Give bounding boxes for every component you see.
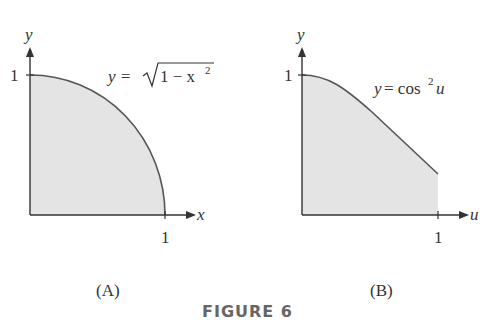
panel-b-eq-lhs: = cos xyxy=(384,79,421,98)
panel-a-eq-lhs: y = xyxy=(106,67,131,86)
panel-a-eq-sup: 2 xyxy=(205,64,211,76)
panel-b-eq-var: u xyxy=(436,79,445,98)
panel-a-y-axis-label: y xyxy=(23,25,33,44)
panel-a-eq-radicand: 1 − x xyxy=(160,67,196,86)
panel-b-eq-y: y xyxy=(372,79,382,98)
panel-b-equation-label: y = cos 2 u xyxy=(372,75,445,98)
figure-canvas: y x 1 1 y = 1 − x 2 (A) y u 1 1 y = cos … xyxy=(0,0,499,323)
panel-b-x-axis-label: u xyxy=(470,205,479,224)
panel-b-caption: (B) xyxy=(370,281,393,300)
panel-b-y-axis-label: y xyxy=(295,25,305,44)
panel-b-chart: y u 1 1 y = cos 2 u (B) xyxy=(284,25,479,300)
panel-a-equation-label: y = 1 − x 2 xyxy=(106,63,214,86)
panel-a-caption: (A) xyxy=(96,281,120,300)
panel-a-y-tick-label: 1 xyxy=(10,66,19,85)
figure-caption: FIGURE 6 xyxy=(202,302,293,321)
panel-b-x-tick-label: 1 xyxy=(434,228,443,247)
panel-a-x-axis-label: x xyxy=(196,205,205,224)
panel-b-eq-sup: 2 xyxy=(428,75,434,87)
panel-b-y-tick-label: 1 xyxy=(284,66,293,85)
panel-a-chart: y x 1 1 y = 1 − x 2 (A) xyxy=(10,25,214,300)
panel-a-x-tick-label: 1 xyxy=(161,228,170,247)
panel-a-shaded-region xyxy=(30,75,165,215)
